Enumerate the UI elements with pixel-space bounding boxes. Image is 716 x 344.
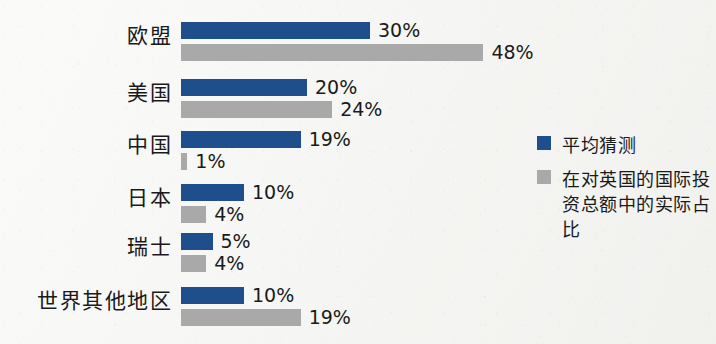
category-label: 日本 bbox=[127, 188, 172, 209]
bar-guess bbox=[181, 287, 244, 304]
bar-guess bbox=[181, 22, 370, 39]
bar-value-label: 4% bbox=[214, 204, 244, 224]
bar-guess bbox=[181, 79, 307, 96]
bar-group-2: 美国20%24% bbox=[0, 79, 716, 118]
bar-value-label: 10% bbox=[252, 285, 294, 305]
bar-actual bbox=[181, 206, 206, 223]
legend-swatch-actual-icon bbox=[537, 170, 551, 184]
bar-value-label: 4% bbox=[214, 253, 244, 273]
category-label: 欧盟 bbox=[127, 26, 172, 47]
bar-value-label: 19% bbox=[309, 129, 351, 149]
legend-swatch-guess-icon bbox=[537, 136, 551, 150]
bar-value-label: 24% bbox=[340, 99, 382, 119]
legend-item-2: 在对英国的国际投资总额中的实际占比 bbox=[537, 167, 709, 242]
bar-guess bbox=[181, 131, 301, 148]
bar-value-label: 30% bbox=[378, 20, 420, 40]
bar-guess bbox=[181, 184, 244, 201]
bar-value-label: 5% bbox=[221, 231, 251, 251]
legend-label: 在对英国的国际投资总额中的实际占比 bbox=[562, 167, 712, 242]
bar-actual bbox=[181, 309, 301, 326]
bar-value-label: 1% bbox=[195, 151, 225, 171]
bar-value-label: 20% bbox=[315, 77, 357, 97]
bar-group-1: 欧盟30%48% bbox=[0, 22, 716, 61]
bar-value-label: 19% bbox=[309, 307, 351, 327]
bar-value-label: 48% bbox=[491, 42, 533, 62]
legend-item-1: 平均猜测 bbox=[537, 133, 709, 158]
category-label: 瑞士 bbox=[127, 237, 172, 258]
legend-label: 平均猜测 bbox=[562, 133, 712, 158]
bar-actual bbox=[181, 255, 206, 272]
category-label: 世界其他地区 bbox=[37, 291, 172, 312]
bar-value-label: 10% bbox=[252, 182, 294, 202]
bar-actual bbox=[181, 153, 187, 170]
bar-actual bbox=[181, 44, 483, 61]
bar-group-6: 世界其他地区10%19% bbox=[0, 287, 716, 326]
bar-guess bbox=[181, 233, 213, 250]
chart-legend: 平均猜测在对英国的国际投资总额中的实际占比 bbox=[537, 133, 709, 251]
bar-actual bbox=[181, 101, 332, 118]
category-label: 美国 bbox=[127, 83, 172, 104]
category-label: 中国 bbox=[127, 135, 172, 156]
